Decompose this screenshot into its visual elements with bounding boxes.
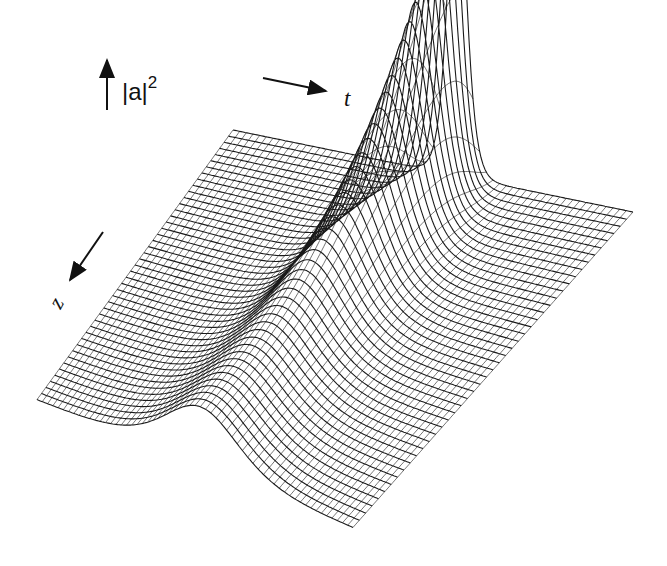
surface-plot: |a|2 t z (0, 0, 667, 566)
time-axis-label: t (344, 86, 350, 112)
axis-arrows (0, 0, 667, 566)
t-arrow-icon (263, 78, 326, 91)
intensity-axis-label: |a|2 (122, 76, 157, 106)
z-arrow-icon (70, 232, 103, 280)
